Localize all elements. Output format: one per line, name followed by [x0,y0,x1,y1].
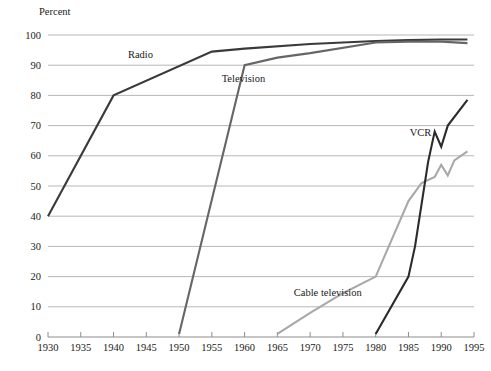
x-tick-label: 1965 [267,342,288,353]
x-tick-label: 1990 [431,342,452,353]
y-tick-label: 80 [31,90,42,101]
x-tick-label: 1940 [103,342,124,353]
y-tick-label: 10 [31,301,42,312]
series-label-radio: Radio [128,49,153,60]
x-tick-label: 1930 [38,342,59,353]
x-tick-label: 1980 [365,342,386,353]
x-tick-label: 1985 [398,342,419,353]
x-tick-label: 1995 [464,342,485,353]
x-tick-label: 1935 [70,342,91,353]
x-tick-label: 1950 [169,342,190,353]
y-tick-label: 70 [31,120,42,131]
y-tick-label: 40 [31,211,42,222]
y-tick-label: 50 [31,181,42,192]
x-tick-label: 1970 [300,342,321,353]
y-tick-label: 90 [31,60,42,71]
series-label-vcr: VCR [410,127,432,138]
y-tick-label: 30 [31,241,42,252]
series-label-television: Television [222,73,266,84]
y-axis-title: Percent [39,6,71,17]
x-tick-label: 1945 [136,342,157,353]
series-label-cable-television: Cable television [294,287,363,298]
chart-container: 0102030405060708090100 19301935194019451… [0,0,491,371]
y-tick-label: 20 [31,271,42,282]
y-tick-label: 60 [31,150,42,161]
y-tick-label: 100 [25,30,41,41]
x-tick-label: 1960 [234,342,255,353]
x-tick-label: 1975 [332,342,353,353]
x-tick-label: 1955 [201,342,222,353]
y-tick-label: 0 [36,332,41,343]
line-chart: 0102030405060708090100 19301935194019451… [0,0,491,371]
